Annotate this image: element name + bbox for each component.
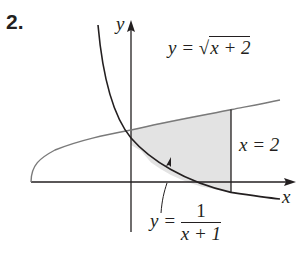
- numerator: 1: [181, 200, 221, 223]
- shaded-region: [131, 110, 231, 193]
- denominator: x + 1: [181, 223, 221, 245]
- lower-prefix: y =: [150, 210, 181, 231]
- label-lower-curve: y = 1x + 1: [150, 200, 221, 245]
- radicand: x + 2: [209, 36, 250, 58]
- label-vertical-line: x = 2: [239, 134, 279, 156]
- y-axis-label: y: [116, 13, 124, 35]
- x-axis-label: x: [282, 186, 290, 208]
- radical-sign: √: [199, 37, 209, 58]
- label-upper-curve: y = √x + 2: [168, 37, 250, 59]
- upper-prefix: y =: [168, 37, 199, 58]
